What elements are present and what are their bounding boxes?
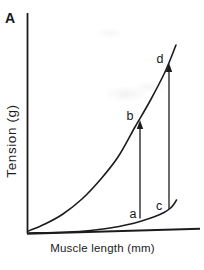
panel-label: A <box>5 10 15 26</box>
point-label-b: b <box>127 109 134 123</box>
length-tension-figure: A Tension (g) Muscle length (mm) abcd <box>0 0 204 270</box>
upper-curve <box>29 45 177 231</box>
x-axis-label: Muscle length (mm) <box>50 242 155 254</box>
chart-canvas: A Tension (g) Muscle length (mm) abcd <box>0 0 204 270</box>
point-label-a: a <box>130 207 137 221</box>
plot-geometry: abcd <box>27 13 200 234</box>
lower-curve <box>29 200 177 233</box>
point-label-c: c <box>156 199 162 213</box>
point-label-d: d <box>157 52 164 66</box>
y-axis-label: Tension (g) <box>4 104 19 177</box>
